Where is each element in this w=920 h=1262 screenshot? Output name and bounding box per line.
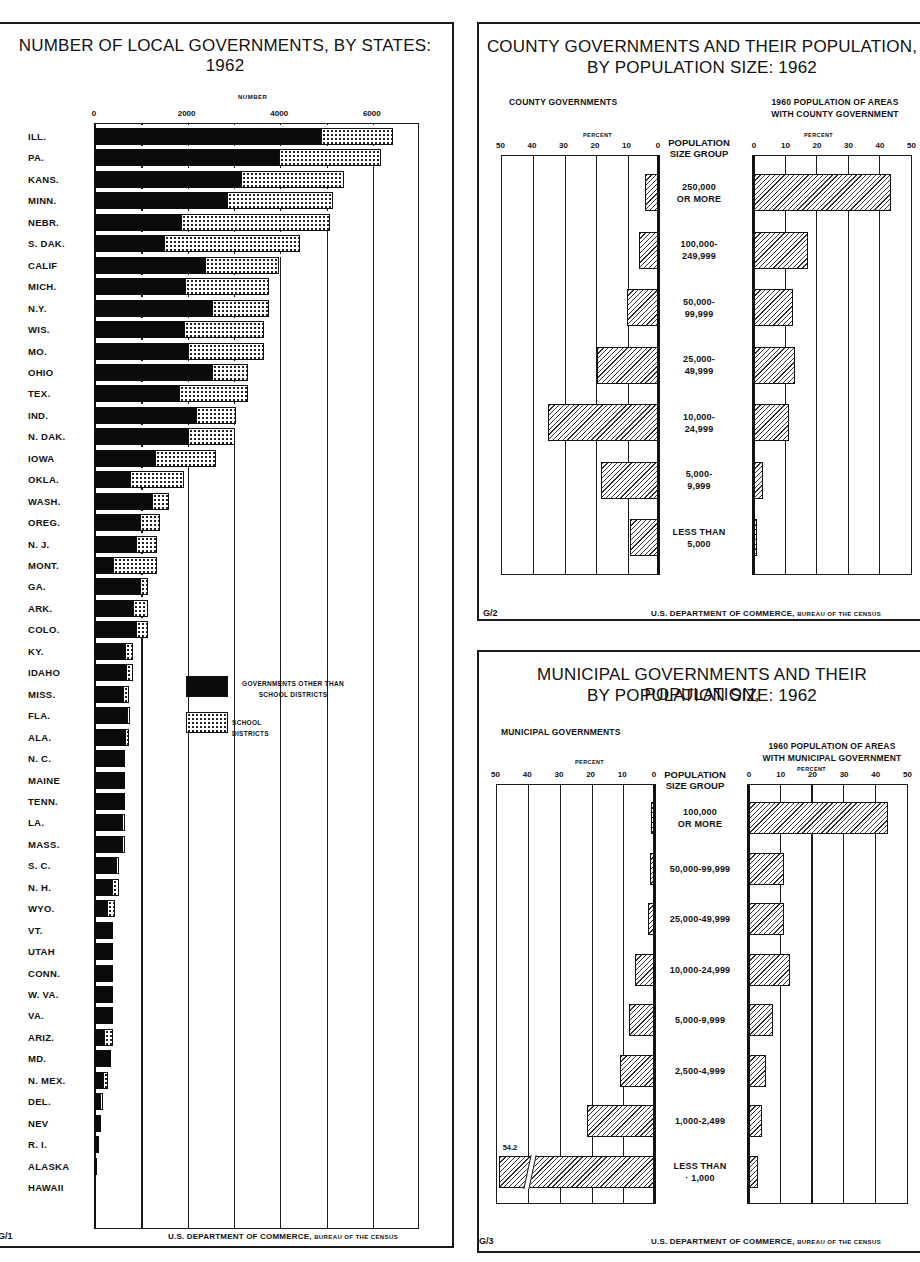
- bar-other-governments: [94, 536, 136, 553]
- bar-other-governments: [94, 192, 227, 209]
- x-tick-label: 4000: [270, 109, 288, 118]
- state-label: TENN.: [28, 796, 58, 807]
- right-tick-label: 30: [844, 141, 853, 150]
- chart-title-line2: 1962: [0, 56, 452, 76]
- bar-school-districts: [181, 214, 330, 231]
- legend-swatch-school-districts: [186, 712, 228, 733]
- state-label: WASH.: [28, 496, 61, 507]
- state-label: TEX.: [28, 388, 50, 399]
- state-label: VA.: [28, 1010, 44, 1021]
- right-bar: [749, 1055, 766, 1087]
- population-group-label: 10,000-24,999: [663, 411, 735, 435]
- chart-county-governments: COUNTY GOVERNMENTS AND THEIR POPULATION,…: [477, 22, 920, 621]
- state-label: IOWA: [28, 453, 55, 464]
- bar-other-governments: [94, 407, 196, 424]
- x-axis-label: NUMBER: [238, 94, 267, 100]
- bar-school-districts: [205, 257, 279, 274]
- state-label: PA.: [28, 152, 44, 163]
- state-row: OKLA.: [0, 469, 452, 490]
- bar-school-districts: [125, 729, 128, 746]
- right-bar: [749, 1105, 762, 1137]
- state-row: WYO.: [0, 898, 452, 919]
- bar-other-governments: [94, 235, 164, 252]
- state-label: DEL.: [28, 1096, 51, 1107]
- state-label: MO.: [28, 346, 47, 357]
- bar-school-districts: [164, 235, 300, 252]
- bar-other-governments: [94, 1072, 103, 1089]
- state-row: S. DAK.: [0, 233, 452, 254]
- bar-other-governments: [94, 149, 279, 166]
- bar-other-governments: [94, 643, 125, 660]
- left-percent-label: PERCENT: [583, 132, 612, 138]
- state-row: ARIZ.: [0, 1027, 452, 1048]
- state-row: S. C.: [0, 855, 452, 876]
- state-row: WASH.: [0, 491, 452, 512]
- state-label: MINN.: [28, 195, 56, 206]
- gridline: [528, 785, 529, 1203]
- right-heading: 1960 POPULATION OF AREASWITH COUNTY GOVE…: [749, 96, 920, 120]
- bar-other-governments: [94, 793, 125, 810]
- left-tick-label: 50: [491, 770, 500, 779]
- left-bar: [651, 802, 654, 834]
- right-bar: [754, 519, 757, 556]
- population-group-label: 50,000-99,999: [657, 863, 743, 875]
- state-row: UTAH: [0, 941, 452, 962]
- bar-other-governments: [94, 879, 112, 896]
- gridline: [811, 785, 812, 1203]
- state-label: LA.: [28, 817, 44, 828]
- legend-swatch-other-governments: [186, 676, 228, 697]
- population-group-label: 100,000OR MORE: [657, 806, 743, 830]
- left-tick-label: 20: [591, 141, 600, 150]
- state-row: NEBR.: [0, 212, 452, 233]
- bar-other-governments: [94, 986, 113, 1003]
- state-row: MD.: [0, 1048, 452, 1069]
- right-bar: [749, 954, 790, 986]
- bar-school-districts: [140, 514, 160, 531]
- state-label: ALA.: [28, 732, 51, 743]
- bar-school-districts: [122, 814, 125, 831]
- state-label: CALIF: [28, 260, 57, 271]
- bar-other-governments: [94, 171, 241, 188]
- state-label: CONN.: [28, 968, 60, 979]
- gridline: [592, 785, 593, 1203]
- right-bar: [749, 1156, 758, 1188]
- state-row: VA.: [0, 1005, 452, 1026]
- left-plot-area: [496, 784, 657, 1204]
- bar-other-governments: [94, 1029, 104, 1046]
- left-bar: [639, 232, 658, 269]
- bar-other-governments: [94, 385, 179, 402]
- bar-school-districts: [241, 171, 344, 188]
- bar-other-governments: [94, 128, 321, 145]
- state-label: GA.: [28, 581, 46, 592]
- bar-other-governments: [94, 321, 184, 338]
- state-label: S. C.: [28, 860, 51, 871]
- bar-other-governments: [94, 514, 140, 531]
- state-row: IND.: [0, 405, 452, 426]
- gridline: [533, 156, 534, 574]
- state-row: W. VA.: [0, 984, 452, 1005]
- state-row: N. DAK.: [0, 426, 452, 447]
- state-row: PA.: [0, 147, 452, 168]
- left-bar: [548, 404, 658, 441]
- bar-other-governments: [94, 257, 205, 274]
- right-bar: [749, 853, 784, 885]
- left-tick-label: 10: [618, 770, 627, 779]
- bar-other-governments: [94, 707, 127, 724]
- bar-school-districts: [136, 621, 149, 638]
- right-bar: [754, 462, 763, 499]
- left-tick-label: 0: [656, 141, 660, 150]
- value-annotation: 54.2: [503, 1143, 518, 1152]
- chart-title-line2: BY POPULATION SIZE: 1962: [479, 686, 920, 706]
- bar-other-governments: [94, 600, 133, 617]
- state-label: HAWAII: [28, 1182, 64, 1193]
- right-tick-label: 10: [776, 770, 785, 779]
- state-row: GA.: [0, 576, 452, 597]
- state-row: ARK.: [0, 598, 452, 619]
- population-group-label: 50,000-99,999: [663, 296, 735, 320]
- state-label: UTAH: [28, 946, 55, 957]
- state-label: N.Y.: [28, 303, 47, 314]
- x-tick-label: 6000: [363, 109, 381, 118]
- left-tick-label: 30: [554, 770, 563, 779]
- gridline: [565, 156, 566, 574]
- state-row: CONN.: [0, 963, 452, 984]
